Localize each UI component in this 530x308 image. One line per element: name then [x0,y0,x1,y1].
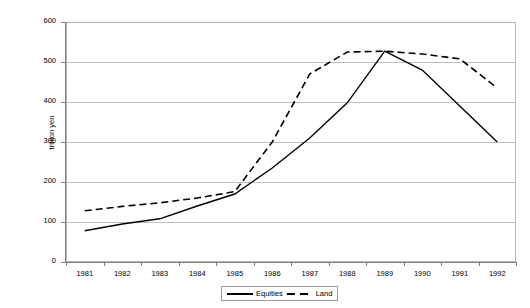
series-line-equities [85,51,498,231]
y-axis-tick [61,262,65,263]
y-axis-tick [61,182,65,183]
y-axis-tick [61,222,65,223]
x-axis-tick-labels: 1981198219831984198519861987198819891990… [66,269,516,283]
legend-item-land[interactable]: Land [287,289,333,298]
y-axis-tick [61,142,65,143]
x-axis-tick [441,262,442,266]
x-axis-tick-label: 1989 [366,269,404,283]
y-axis-tick-label: 600 [28,17,56,25]
line-chart: trillion yen 0100200300400500600 1981198… [0,0,530,308]
y-axis-tick-label: 100 [28,217,56,225]
x-axis-tick [366,262,367,266]
x-axis-tick [104,262,105,266]
y-axis-tick-label: 400 [28,97,56,105]
x-axis-tick [254,262,255,266]
y-axis-tick [61,102,65,103]
x-axis-tick [291,262,292,266]
chart-legend: Equities Land [221,286,338,301]
x-axis-tick [404,262,405,266]
x-axis-tick-label: 1990 [404,269,442,283]
x-axis-tick [141,262,142,266]
series-layer [66,22,516,262]
x-axis-tick-label: 1991 [441,269,479,283]
x-axis-tick-label: 1988 [329,269,367,283]
legend-label-land: Land [316,289,333,298]
solid-line-swatch [227,290,253,298]
x-axis-tick [516,262,517,266]
dashed-line-swatch [287,290,313,298]
x-axis-tick-label: 1986 [254,269,292,283]
x-axis-tick-label: 1984 [179,269,217,283]
y-axis-tick [61,62,65,63]
x-axis-tick-label: 1983 [141,269,179,283]
x-axis-tick-label: 1992 [479,269,517,283]
x-axis-tick-label: 1982 [104,269,142,283]
x-axis-tick [329,262,330,266]
x-axis-tick-label: 1981 [66,269,104,283]
legend-item-equities[interactable]: Equities [227,289,283,298]
y-axis-tick-label: 500 [28,57,56,65]
x-axis-tick-label: 1985 [216,269,254,283]
x-axis-tick [216,262,217,266]
legend-label-equities: Equities [256,289,283,298]
y-axis-tick-labels: 0100200300400500600 [24,0,56,308]
x-axis-tick-label: 1987 [291,269,329,283]
y-axis-tick-label: 300 [28,137,56,145]
y-axis-tick-label: 200 [28,177,56,185]
y-axis-tick [61,22,65,23]
x-axis-tick [179,262,180,266]
series-line-land [85,51,498,211]
x-axis-tick [66,262,67,266]
y-axis-tick-label: 0 [28,257,56,265]
x-axis-tick [479,262,480,266]
